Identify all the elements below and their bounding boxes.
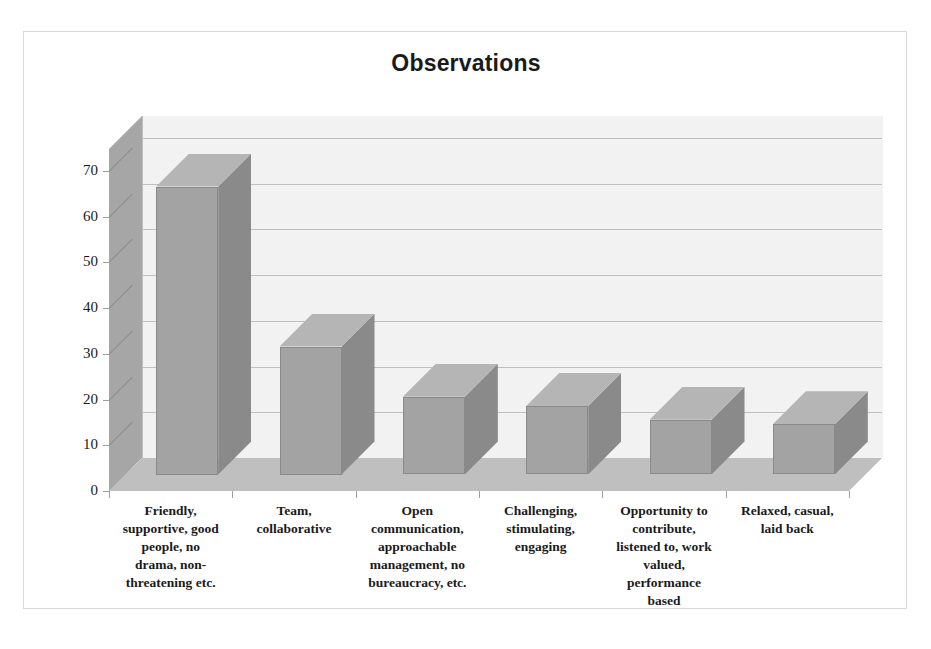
plot-side-wall	[109, 116, 142, 491]
x-axis-tick	[356, 491, 357, 498]
gridline	[142, 138, 882, 139]
x-axis-category-line: Challenging,	[473, 502, 608, 520]
bar	[773, 424, 835, 474]
x-axis-category-label: Friendly,supportive, goodpeople, nodrama…	[103, 502, 238, 592]
x-axis-category-line: communication,	[350, 520, 485, 538]
bar-front-face	[403, 397, 465, 475]
x-axis-tick	[232, 491, 233, 498]
bar-front-face	[650, 420, 712, 475]
bar-front-face	[280, 347, 342, 475]
x-axis-category-line: valued,	[596, 556, 731, 574]
x-axis-category-label: Team,collaborative	[226, 502, 361, 538]
x-axis-tick	[849, 491, 850, 498]
gridline	[142, 229, 882, 230]
x-axis-category-label: Challenging,stimulating,engaging	[473, 502, 608, 556]
x-axis-category-line: engaging	[473, 538, 608, 556]
y-axis-tick	[103, 445, 109, 446]
y-axis-label: 30	[62, 345, 98, 362]
bar-front-face	[156, 187, 218, 475]
x-axis-category-line: bureaucracy, etc.	[350, 574, 485, 592]
x-axis-category-line: approachable	[350, 538, 485, 556]
x-axis-category-line: laid back	[720, 520, 855, 538]
y-axis-label: 50	[62, 253, 98, 270]
x-axis-category-line: Team,	[226, 502, 361, 520]
x-axis-category-line: contribute,	[596, 520, 731, 538]
x-axis-category-line: performance	[596, 574, 731, 592]
x-axis-category-line: threatening etc.	[103, 574, 238, 592]
side-wall-gridline	[109, 422, 133, 446]
y-axis-label: 20	[62, 391, 98, 408]
x-axis-category-line: collaborative	[226, 520, 361, 538]
bar	[156, 187, 218, 475]
chart-page: Observations 010203040506070 Friendly,su…	[0, 0, 931, 649]
x-axis-category-label: Opportunity tocontribute,listened to, wo…	[596, 502, 731, 610]
gridline	[142, 412, 882, 413]
bar-front-face	[773, 424, 835, 474]
x-axis-tick	[726, 491, 727, 498]
side-wall-gridline	[109, 376, 133, 400]
x-axis-category-line: people, no	[103, 538, 238, 556]
x-axis-category-line: Relaxed, casual,	[720, 502, 855, 520]
y-axis-label: 10	[62, 436, 98, 453]
bar	[403, 397, 465, 475]
x-axis-tick	[109, 491, 110, 498]
y-axis-tick	[103, 354, 109, 355]
x-axis-category-line: Friendly,	[103, 502, 238, 520]
y-axis-label: 40	[62, 299, 98, 316]
y-axis-label: 60	[62, 208, 98, 225]
x-axis-category-line: management, no	[350, 556, 485, 574]
plot-back-wall	[142, 116, 883, 458]
side-wall-gridline	[109, 331, 133, 355]
y-axis-tick	[103, 217, 109, 218]
bar	[280, 347, 342, 475]
side-wall-gridline	[109, 148, 133, 172]
x-axis-tick	[479, 491, 480, 498]
gridline	[142, 321, 882, 322]
chart-frame: Observations 010203040506070 Friendly,su…	[23, 31, 907, 609]
y-axis-tick	[103, 400, 109, 401]
y-axis-label: 70	[62, 162, 98, 179]
bar-side-face	[218, 154, 251, 475]
gridline	[142, 275, 882, 276]
x-axis-category-line: supportive, good	[103, 520, 238, 538]
bar	[526, 406, 588, 475]
gridline	[142, 184, 882, 185]
side-wall-gridline	[109, 239, 133, 263]
gridline	[142, 367, 882, 368]
x-axis-category-line: drama, non-	[103, 556, 238, 574]
bar	[650, 420, 712, 475]
y-axis-label: 0	[62, 482, 98, 499]
plot-area: 010203040506070 Friendly,supportive, goo…	[24, 32, 908, 610]
y-axis-tick	[103, 262, 109, 263]
x-axis-category-label: Relaxed, casual,laid back	[720, 502, 855, 538]
side-wall-gridline	[109, 194, 133, 218]
x-axis-category-line: based	[596, 592, 731, 610]
x-axis-category-label: Opencommunication,approachablemanagement…	[350, 502, 485, 592]
x-axis-category-line: listened to, work	[596, 538, 731, 556]
x-axis-category-line: Open	[350, 502, 485, 520]
y-axis-tick	[103, 308, 109, 309]
x-axis-category-line: stimulating,	[473, 520, 608, 538]
bar-front-face	[526, 406, 588, 475]
y-axis-tick	[103, 171, 109, 172]
x-axis-category-line: Opportunity to	[596, 502, 731, 520]
side-wall-gridline	[109, 285, 133, 309]
x-axis-tick	[602, 491, 603, 498]
